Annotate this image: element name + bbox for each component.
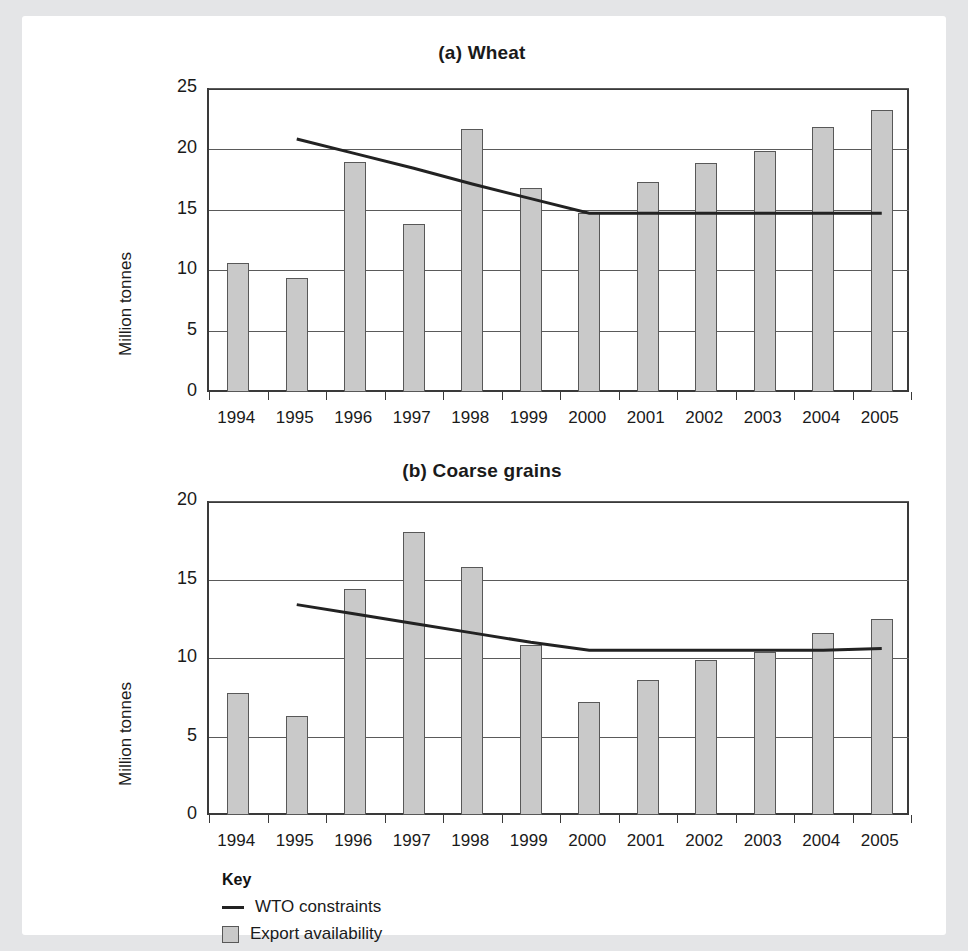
x-axis-tick-label: 1996	[324, 408, 383, 428]
y-axis-tick-label: 10	[149, 646, 197, 667]
chart-b-plot-area	[207, 501, 909, 815]
y-axis-tick-label: 0	[149, 803, 197, 824]
x-axis-tick	[911, 815, 912, 823]
wto-constraints-line	[209, 88, 911, 392]
chart-a-plot-area	[207, 88, 909, 392]
x-axis-tick-label: 2000	[558, 408, 617, 428]
x-axis-tick	[443, 815, 444, 823]
chart-a-ylabel: Million tonnes	[116, 252, 136, 356]
x-axis-tick	[502, 815, 503, 823]
x-axis-tick-label: 2001	[617, 408, 676, 428]
figure-page: (a) Wheat Million tonnes 051015202519941…	[22, 16, 946, 935]
x-axis-tick-label: 2001	[617, 831, 676, 851]
legend-item-export-label: Export availability	[250, 924, 382, 944]
x-axis-tick	[619, 392, 620, 400]
x-axis-tick	[677, 392, 678, 400]
y-axis-tick-label: 10	[149, 258, 197, 279]
legend-item-wto: WTO constraints	[222, 897, 382, 917]
y-axis-tick-label: 25	[149, 76, 197, 97]
x-axis-tick-label: 2002	[675, 831, 734, 851]
x-axis-tick	[560, 815, 561, 823]
x-axis-tick	[794, 815, 795, 823]
x-axis-tick	[502, 392, 503, 400]
x-axis-tick-label: 2002	[675, 408, 734, 428]
x-axis-tick-label: 1999	[500, 408, 559, 428]
chart-b-title: (b) Coarse grains	[202, 460, 762, 482]
x-axis-tick	[794, 392, 795, 400]
x-axis-tick	[385, 392, 386, 400]
chart-b-ylabel: Million tonnes	[116, 682, 136, 786]
x-axis-tick	[268, 392, 269, 400]
x-axis-tick-label: 1996	[324, 831, 383, 851]
y-axis-tick-label: 5	[149, 725, 197, 746]
legend-item-wto-label: WTO constraints	[255, 897, 381, 917]
legend-title: Key	[222, 871, 382, 889]
chart-wheat: (a) Wheat Million tonnes 051015202519941…	[22, 16, 946, 436]
x-axis-tick	[326, 815, 327, 823]
x-axis-tick-label: 2003	[734, 408, 793, 428]
figure-outer-frame: (a) Wheat Million tonnes 051015202519941…	[0, 0, 968, 951]
x-axis-tick	[268, 815, 269, 823]
x-axis-tick	[619, 815, 620, 823]
wto-constraints-line	[209, 501, 911, 815]
x-axis-tick-label: 1997	[383, 831, 442, 851]
x-axis-tick-label: 1997	[383, 408, 442, 428]
x-axis-tick-label: 1995	[266, 831, 325, 851]
chart-coarse-grains: (b) Coarse grains Million tonnes 0510152…	[22, 446, 946, 866]
line-swatch-icon	[222, 906, 244, 909]
x-axis-tick-label: 1998	[441, 408, 500, 428]
y-axis-tick-label: 0	[149, 380, 197, 401]
x-axis-tick-label: 2004	[792, 408, 851, 428]
x-axis-tick	[853, 815, 854, 823]
legend-key: Key WTO constraints Export availability	[222, 871, 382, 951]
y-axis-tick-label: 20	[149, 489, 197, 510]
x-axis-tick	[736, 815, 737, 823]
x-axis-tick-label: 1995	[266, 408, 325, 428]
legend-item-export: Export availability	[222, 924, 382, 944]
x-axis-tick-label: 1994	[207, 831, 266, 851]
x-axis-tick	[209, 392, 210, 400]
x-axis-tick-label: 2004	[792, 831, 851, 851]
chart-a-title: (a) Wheat	[202, 42, 762, 64]
x-axis-tick	[443, 392, 444, 400]
x-axis-tick	[326, 392, 327, 400]
x-axis-tick-label: 2005	[851, 831, 910, 851]
x-axis-tick-label: 1999	[500, 831, 559, 851]
x-axis-tick	[209, 815, 210, 823]
y-axis-tick-label: 20	[149, 137, 197, 158]
x-axis-tick	[853, 392, 854, 400]
y-axis-tick-label: 5	[149, 319, 197, 340]
x-axis-tick	[385, 815, 386, 823]
x-axis-tick	[911, 392, 912, 400]
x-axis-tick	[560, 392, 561, 400]
y-axis-tick-label: 15	[149, 568, 197, 589]
x-axis-tick-label: 1998	[441, 831, 500, 851]
y-axis-tick-label: 15	[149, 198, 197, 219]
x-axis-tick-label: 2000	[558, 831, 617, 851]
x-axis-tick	[677, 815, 678, 823]
x-axis-tick-label: 2003	[734, 831, 793, 851]
x-axis-tick	[736, 392, 737, 400]
x-axis-tick-label: 1994	[207, 408, 266, 428]
x-axis-tick-label: 2005	[851, 408, 910, 428]
box-swatch-icon	[222, 926, 239, 943]
